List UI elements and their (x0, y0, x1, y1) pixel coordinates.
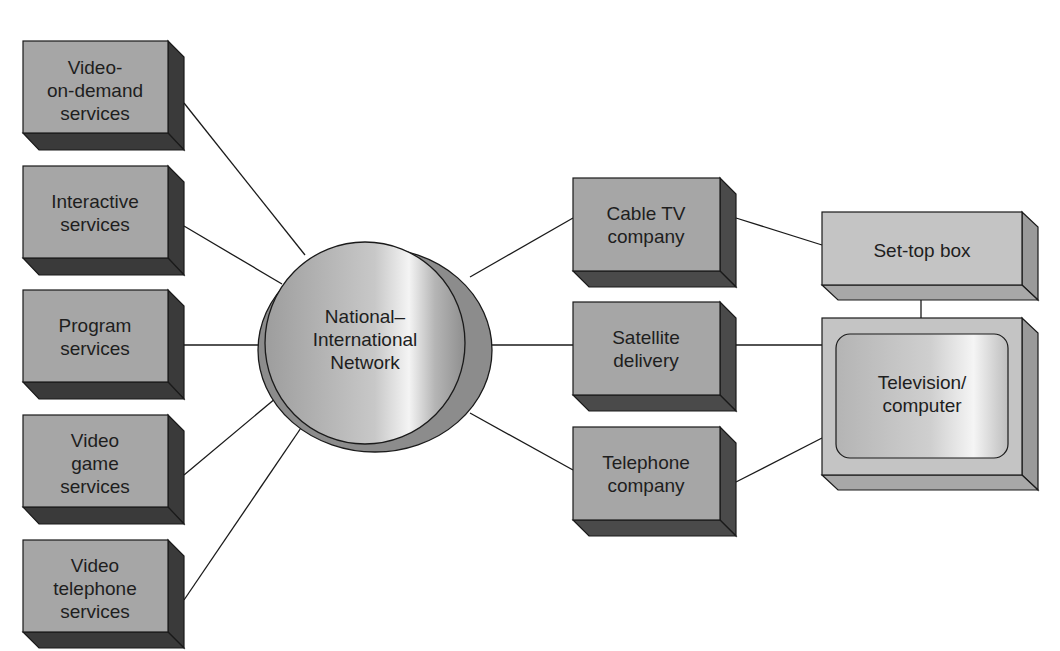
label-cable-tv-2: company (607, 226, 685, 247)
label-video-game-3: services (60, 476, 130, 497)
label-telephone-company-1: Telephone (602, 452, 690, 473)
label-display-2: computer (882, 395, 962, 416)
label-interactive-1: Interactive (51, 191, 139, 212)
label-set-top-box: Set-top box (873, 240, 971, 261)
label-satellite-1: Satellite (612, 327, 680, 348)
label-video-game-1: Video (71, 430, 119, 451)
network-diagram: Video- on-demand services Interactive se… (0, 0, 1060, 651)
label-cable-tv-1: Cable TV (607, 203, 686, 224)
label-video-on-demand-2: on-demand (47, 80, 143, 101)
label-interactive-2: services (60, 214, 130, 235)
label-video-telephone-2: telephone (53, 578, 136, 599)
label-program-2: services (60, 338, 130, 359)
label-hub-1: National– (325, 306, 406, 327)
label-display-1: Television/ (878, 372, 967, 393)
label-video-on-demand-3: services (60, 103, 130, 124)
label-hub-2: International (313, 329, 418, 350)
label-telephone-company-2: company (607, 475, 685, 496)
label-video-telephone-1: Video (71, 555, 119, 576)
label-video-game-2: game (71, 453, 119, 474)
label-satellite-2: delivery (613, 350, 679, 371)
label-program-1: Program (59, 315, 132, 336)
label-hub-3: Network (330, 352, 400, 373)
label-video-on-demand-1: Video- (68, 57, 123, 78)
label-video-telephone-3: services (60, 601, 130, 622)
